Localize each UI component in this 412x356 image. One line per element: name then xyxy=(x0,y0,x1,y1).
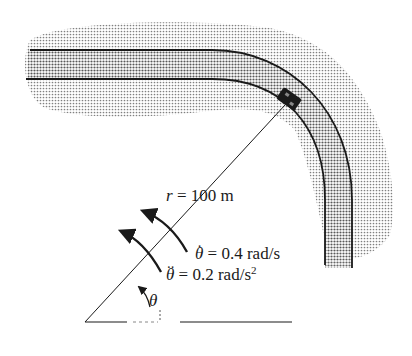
theta-dot-symbol: ·θ xyxy=(195,245,203,262)
angular-acceleration-label: ··θ = 0.2 rad/s2 xyxy=(166,265,257,283)
angle-symbol: θ xyxy=(149,291,157,310)
exponent: 2 xyxy=(251,264,257,276)
angular-velocity-arrow xyxy=(143,211,187,252)
theta-ddot-symbol: ··θ xyxy=(166,266,174,283)
road-diagram xyxy=(0,0,412,356)
radius-value: = 100 m xyxy=(173,186,234,205)
radius-label: r = 100 m xyxy=(166,187,234,204)
ddot-accent: ·· xyxy=(167,261,174,275)
radius-line xyxy=(85,105,285,322)
radius-symbol: r xyxy=(166,186,173,205)
angular-acceleration-arrow xyxy=(121,231,161,272)
angular-acceleration-value: = 0.2 rad/s xyxy=(174,265,251,284)
angular-velocity-value: = 0.4 rad/s xyxy=(203,244,280,263)
angular-velocity-label: ·θ = 0.4 rad/s xyxy=(195,245,280,262)
dot-accent: · xyxy=(197,240,201,254)
angle-label: θ xyxy=(149,292,157,309)
